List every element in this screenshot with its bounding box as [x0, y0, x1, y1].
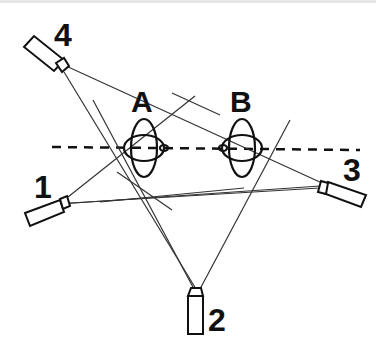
camera-1-label: 1 [34, 169, 52, 205]
camera-4-label: 4 [54, 17, 72, 53]
camera-2 [188, 288, 203, 334]
sight-lines [60, 66, 322, 289]
object-a-label: A [131, 85, 153, 118]
object-b-label: B [230, 85, 252, 118]
object-b [219, 119, 262, 177]
camera-coverage-diagram: 4 1 3 2 A B [0, 0, 384, 352]
dashed-axis-line [52, 147, 360, 150]
object-a [124, 119, 168, 177]
camera-3-label: 3 [343, 152, 361, 188]
camera-2-label: 2 [208, 302, 226, 338]
